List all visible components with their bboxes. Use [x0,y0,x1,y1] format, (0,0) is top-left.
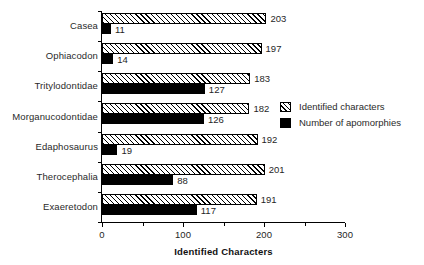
x-axis-tick-label: 300 [325,229,365,240]
y-axis-tick [98,162,102,163]
bar-identified-characters [102,194,257,205]
category-label: Therocephalia [36,172,98,182]
x-axis-minor-tick [143,223,144,226]
category-label: Ophiacodon [46,51,98,61]
y-axis-tick [98,41,102,42]
bar-value-label: 19 [121,146,132,156]
bar-value-label: 192 [262,135,278,145]
x-axis-tick [264,223,265,227]
bar-identified-characters [102,134,258,145]
bar-number-of-apomorphies [102,24,111,34]
bar-value-label: 191 [261,195,277,205]
category-label: Edaphosaurus [36,142,98,152]
bar-number-of-apomorphies [102,175,173,185]
bar-identified-characters [102,103,249,114]
category-label: Casea [70,21,98,31]
chart-legend: Identified characters Number of apomorph… [280,100,422,132]
y-axis-tick [98,132,102,133]
legend-item-number-of-apomorphies: Number of apomorphies [280,116,422,132]
x-axis-tick [102,223,103,227]
bar-identified-characters [102,43,262,54]
bar-value-label: 183 [254,74,270,84]
bar-value-label: 182 [253,104,269,114]
bar-identified-characters [102,13,266,24]
bar-number-of-apomorphies [102,205,197,215]
y-axis-tick [98,101,102,102]
y-axis-tick [98,192,102,193]
bar-identified-characters [102,164,265,175]
bar-value-label: 201 [269,165,285,175]
category-label: Morganucodontidae [12,112,98,122]
y-axis-tick [98,71,102,72]
legend-label: Identified characters [299,101,385,113]
bar-value-label: 203 [270,14,286,24]
legend-label: Number of apomorphies [299,117,401,129]
x-axis-minor-tick [224,223,225,226]
bar-value-label: 126 [208,115,224,125]
bar-value-label: 197 [266,44,282,54]
x-axis-tick-label: 0 [82,229,122,240]
bar-number-of-apomorphies [102,114,204,124]
x-axis-title: Identified Characters [102,246,345,257]
category-label: Exaeretodon [43,202,98,212]
x-axis-tick [183,223,184,227]
legend-item-identified-characters: Identified characters [280,100,422,116]
x-axis-tick-label: 200 [244,229,284,240]
x-axis-tick [345,223,346,227]
bar-value-label: 88 [177,176,188,186]
legend-swatch-hatched-icon [280,102,291,112]
bar-value-label: 14 [117,55,128,65]
y-axis-tick [98,11,102,12]
legend-swatch-solid-icon [280,118,291,128]
x-axis-minor-tick [305,223,306,226]
bar-identified-characters [102,73,250,84]
bar-number-of-apomorphies [102,84,205,94]
bar-chart: CaseaOphiacodonTritylodontidaeMorganucod… [0,0,424,265]
bar-number-of-apomorphies [102,54,113,64]
bar-value-label: 127 [209,85,225,95]
bar-number-of-apomorphies [102,145,117,155]
x-axis-tick-label: 100 [163,229,203,240]
bar-value-label: 117 [201,206,216,216]
bar-value-label: 11 [115,25,125,35]
category-label: Tritylodontidae [35,81,98,91]
